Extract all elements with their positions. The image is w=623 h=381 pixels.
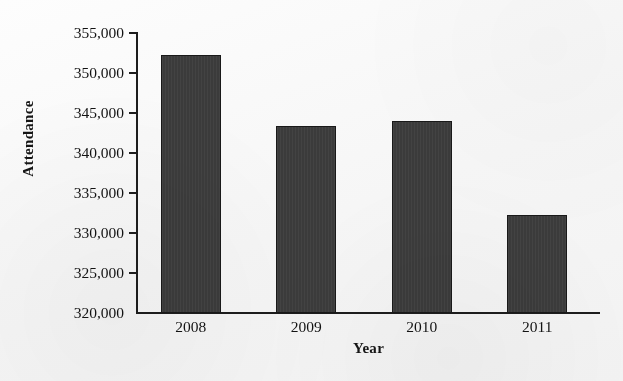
y-tick-label: 350,000 [24,64,124,82]
y-tick-label: 345,000 [24,104,124,122]
y-tick-label: 320,000 [24,304,124,322]
y-tick-label: 355,000 [24,24,124,42]
y-tick-label: 325,000 [24,264,124,282]
x-tick-label: 2011 [487,318,587,336]
y-tick-label: 340,000 [24,144,124,162]
bar-chart: Attendance 355,000 350,000 345,000 340,0… [0,0,623,381]
bar-2009 [276,126,336,313]
x-tick-label: 2008 [141,318,241,336]
bar-2010 [392,121,452,313]
y-axis-line [136,32,138,314]
x-tick-label: 2009 [256,318,356,336]
bar-2008 [161,55,221,313]
y-tick-label: 330,000 [24,224,124,242]
x-axis-title: Year [137,340,600,357]
x-tick-label: 2010 [372,318,472,336]
bar-2011 [507,215,567,313]
y-tick-label: 335,000 [24,184,124,202]
